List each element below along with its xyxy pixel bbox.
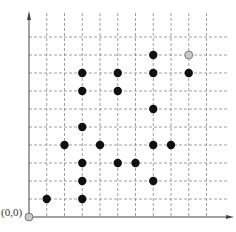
black-point bbox=[149, 51, 157, 59]
gray-point bbox=[25, 213, 33, 221]
black-point bbox=[78, 87, 86, 95]
black-point bbox=[43, 195, 51, 203]
black-point bbox=[78, 159, 86, 167]
black-point bbox=[114, 87, 122, 95]
black-point bbox=[78, 177, 86, 185]
black-point bbox=[96, 141, 104, 149]
origin-label: (0,0) bbox=[1, 206, 22, 218]
black-point bbox=[167, 141, 175, 149]
black-point bbox=[78, 123, 86, 131]
y-axis-arrow-icon bbox=[27, 11, 31, 20]
black-point bbox=[114, 69, 122, 77]
black-point bbox=[149, 141, 157, 149]
black-point bbox=[60, 141, 68, 149]
black-point bbox=[149, 177, 157, 185]
black-point bbox=[185, 69, 193, 77]
black-point bbox=[131, 159, 139, 167]
x-axis-arrow-icon bbox=[226, 215, 234, 219]
black-point bbox=[78, 195, 86, 203]
black-point bbox=[78, 69, 86, 77]
black-point bbox=[149, 69, 157, 77]
gray-point bbox=[185, 51, 193, 59]
black-point bbox=[114, 159, 122, 167]
black-point bbox=[149, 105, 157, 113]
point-grid-diagram bbox=[0, 0, 236, 232]
